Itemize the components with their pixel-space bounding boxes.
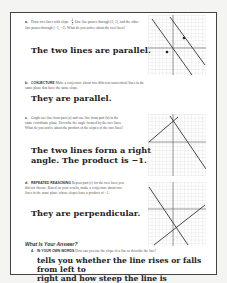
parallel-lines-graph	[148, 15, 206, 75]
question-b: b. CONJECTURE Make a conjecture about tw…	[25, 81, 145, 91]
worksheet-page: a. Draw two lines with slope −43. One li…	[10, 12, 217, 275]
question-a: a. Draw two lines with slope −43. One li…	[25, 19, 143, 31]
keyword: REPEATED REASONING	[31, 181, 71, 185]
perpendicular-graph-d	[148, 182, 206, 246]
section-heading: What Is Your Answer?	[25, 241, 78, 247]
question-c: c. Graph one line from part (a) and one …	[25, 116, 125, 132]
right-angle-graph-c	[148, 114, 206, 176]
answer-d: They are perpendicular.	[31, 208, 140, 218]
question-label: a.	[25, 20, 28, 24]
answer-a: The two lines are parallel.	[31, 45, 151, 55]
question-4: 4. IN YOUR OWN WORDS How can you use the…	[31, 249, 201, 254]
answer-b: They are parallel.	[31, 93, 112, 103]
keyword: IN YOUR OWN WORDS	[37, 249, 74, 253]
keyword: CONJECTURE	[31, 81, 54, 85]
answer-4: tells you whether the line rises or fall…	[37, 256, 216, 283]
question-d: d. REPEATED REASONING Repeat part (c) fo…	[25, 181, 125, 197]
answer-c: The two lines form a right angle. The pr…	[31, 145, 151, 165]
